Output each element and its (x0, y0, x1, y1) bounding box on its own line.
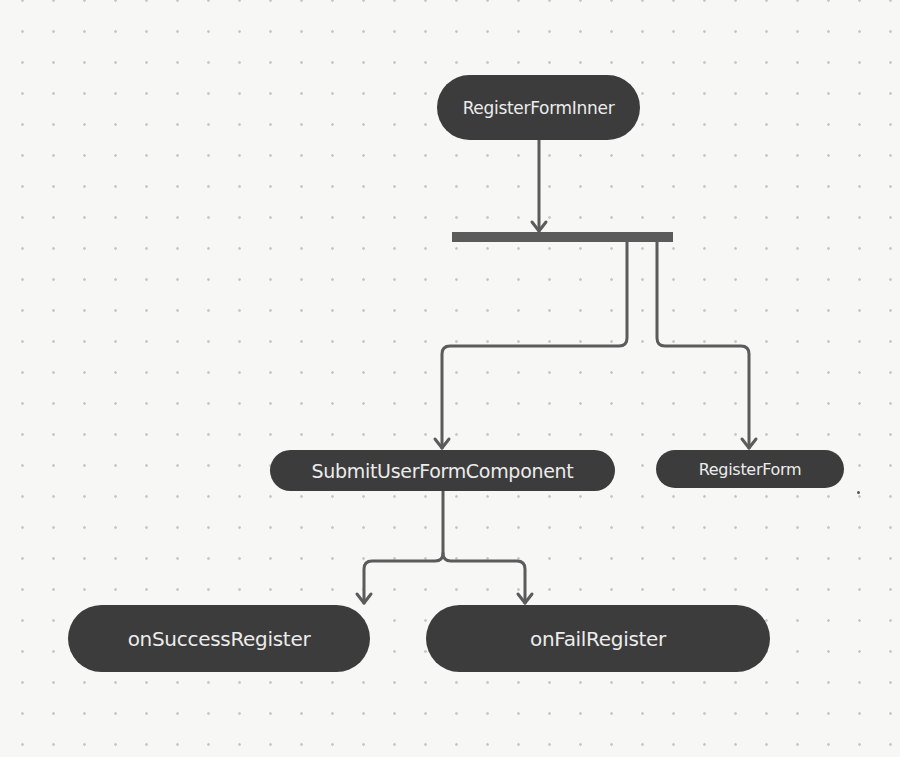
node-label: SubmitUserFormComponent (312, 460, 574, 482)
node-register-form-inner[interactable]: RegisterFormInner (437, 75, 640, 140)
node-label: onSuccessRegister (128, 627, 311, 651)
node-on-success-register[interactable]: onSuccessRegister (68, 605, 370, 672)
node-submit-user-form-component[interactable]: SubmitUserFormComponent (270, 450, 615, 491)
edge-registerforminner-to-fork (532, 140, 546, 231)
edge-submit-to-onfailregister (443, 553, 532, 603)
node-label: onFailRegister (530, 627, 666, 651)
edge-submit-to-onsuccessregister (357, 491, 443, 603)
fork-bar (452, 232, 673, 242)
node-label: RegisterForm (699, 460, 802, 479)
node-on-fail-register[interactable]: onFailRegister (426, 605, 770, 672)
node-register-form[interactable]: RegisterForm (656, 450, 844, 488)
edge-fork-to-submituserformcomponent (435, 242, 627, 448)
edge-fork-to-registerform (657, 242, 756, 448)
stray-dot (857, 491, 860, 494)
node-label: RegisterFormInner (463, 98, 615, 118)
